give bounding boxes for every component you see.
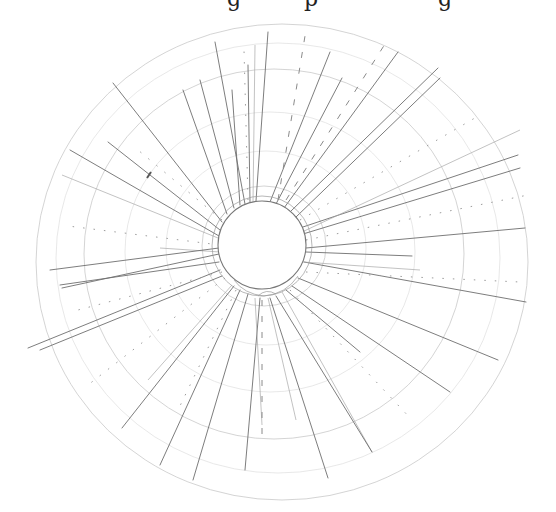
radial-pencil-sketch (0, 0, 556, 512)
central-hub (212, 196, 312, 296)
